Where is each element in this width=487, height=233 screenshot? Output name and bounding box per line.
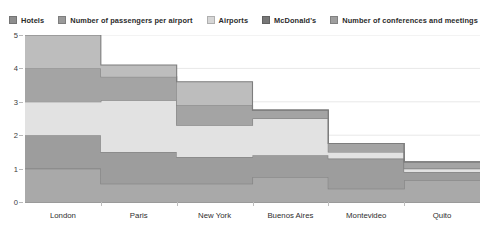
y-tick-label-2: 2: [2, 131, 18, 140]
x-axis-label-london: London: [25, 206, 101, 226]
x-axis-tick: [404, 202, 405, 206]
legend-item-airports[interactable]: Airports: [207, 16, 249, 25]
y-tick-label-1: 1: [2, 164, 18, 173]
y-tick-mark-3: [19, 102, 23, 103]
x-axis: LondonParisNew YorkBuenos AiresMontevide…: [25, 206, 480, 226]
x-axis-label-montevideo: Montevideo: [328, 206, 404, 226]
y-tick-label-3: 3: [2, 97, 18, 106]
plot-area: [25, 35, 480, 202]
legend-label-mcdonalds: McDonald's: [274, 16, 316, 25]
y-tick-mark-0: [19, 202, 23, 203]
stacked-step-area-chart: Hotels Number of passengers per airport …: [0, 0, 487, 233]
y-tick-mark-1: [19, 169, 23, 170]
x-axis-tick: [328, 202, 329, 206]
y-tick-label-5: 5: [2, 31, 18, 40]
x-axis-label-paris: Paris: [101, 206, 177, 226]
legend-label-airports: Airports: [219, 16, 249, 25]
x-axis-label-new-york: New York: [177, 206, 253, 226]
y-axis: 012345: [0, 28, 25, 210]
y-tick-mark-4: [19, 68, 23, 69]
x-axis-tick: [253, 202, 254, 206]
legend-item-conferences[interactable]: Number of conferences and meetings: [330, 16, 478, 25]
x-axis-label-quito: Quito: [404, 206, 480, 226]
legend-item-mcdonalds[interactable]: McDonald's: [262, 16, 316, 25]
legend-item-hotels[interactable]: Hotels: [9, 16, 44, 25]
legend-swatch-mcdonalds: [262, 16, 270, 24]
x-axis-label-buenos-aires: Buenos Aires: [252, 206, 328, 226]
legend-label-conferences: Number of conferences and meetings: [342, 16, 478, 25]
y-tick-label-4: 4: [2, 64, 18, 73]
y-tick-mark-5: [19, 35, 23, 36]
x-axis-tick: [177, 202, 178, 206]
y-tick-mark-2: [19, 135, 23, 136]
legend-swatch-airports: [207, 16, 215, 24]
legend-label-passengers: Number of passengers per airport: [70, 16, 192, 25]
legend-item-passengers[interactable]: Number of passengers per airport: [58, 16, 192, 25]
y-tick-label-0: 0: [2, 198, 18, 207]
plot-svg: [25, 35, 480, 202]
chart-legend: Hotels Number of passengers per airport …: [0, 11, 487, 29]
legend-swatch-passengers: [58, 16, 66, 24]
legend-label-hotels: Hotels: [21, 16, 44, 25]
legend-swatch-hotels: [9, 16, 17, 24]
legend-swatch-conferences: [330, 16, 338, 24]
x-axis-tick: [101, 202, 102, 206]
